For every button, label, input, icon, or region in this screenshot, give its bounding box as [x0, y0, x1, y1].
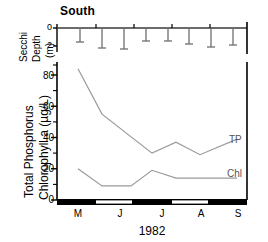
xtick-label-2: J [152, 208, 172, 219]
chart-figure: South Secchi Depth (m) 0 2 [0, 0, 268, 242]
xtick-label-3: A [191, 208, 211, 219]
xtick-label-1: J [110, 208, 130, 219]
xtick-label-0: M [68, 208, 88, 219]
nutrient-plot [0, 0, 268, 242]
nutrient-major-ticks [51, 75, 57, 200]
series-label-tp: TP [229, 134, 242, 145]
series-label-chl: Chl [227, 168, 242, 179]
series-line-chl [78, 169, 237, 186]
x-axis-title: 1982 [122, 224, 182, 238]
xtick-label-4: S [228, 208, 248, 219]
month-band [57, 199, 247, 205]
series-line-tp [78, 69, 237, 155]
